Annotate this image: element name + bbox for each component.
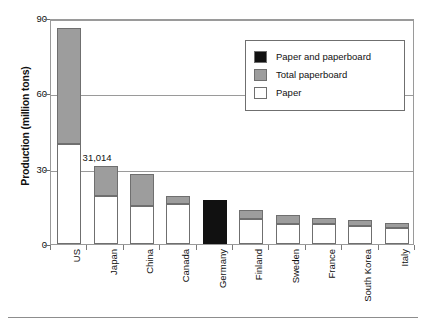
bar-segment-paper xyxy=(385,228,409,244)
y-tick-label: 30 xyxy=(7,165,47,175)
bar-segment-paper xyxy=(57,144,81,244)
y-tick-label: 0 xyxy=(7,240,47,250)
x-tick-mark xyxy=(341,245,342,250)
legend-label: Paper xyxy=(276,88,301,98)
bar-segment-paper xyxy=(239,219,263,244)
legend-label: Paper and paperboard xyxy=(276,52,371,62)
x-axis-label-us: US xyxy=(72,249,82,262)
bar-segment-paper-and-paperboard xyxy=(203,200,227,244)
x-tick-mark xyxy=(196,245,197,250)
bar-segment-paper xyxy=(312,224,336,244)
x-tick-mark xyxy=(305,245,306,250)
x-axis-label-sweden: Sweden xyxy=(291,249,301,283)
x-axis-label-finland: Finland xyxy=(254,249,264,280)
x-axis-label-japan: Japan xyxy=(109,249,119,275)
bar-segment-total-paperboard xyxy=(166,196,190,204)
x-tick-mark xyxy=(123,245,124,250)
x-axis-label-italy: Italy xyxy=(400,249,410,266)
bar-segment-paper xyxy=(166,204,190,244)
chart-legend: Paper and paperboard Total paperboard Pa… xyxy=(245,40,405,111)
x-tick-mark xyxy=(159,245,160,250)
x-axis-label-china: China xyxy=(145,249,155,274)
bar-segment-total-paperboard xyxy=(130,174,154,207)
x-tick-mark xyxy=(414,245,415,250)
x-tick-mark xyxy=(86,245,87,250)
bar-segment-total-paperboard xyxy=(348,220,372,226)
gridline xyxy=(51,20,413,21)
legend-item: Total paperboard xyxy=(254,66,396,84)
x-tick-mark xyxy=(268,245,269,250)
bar-segment-paper xyxy=(276,224,300,244)
x-tick-mark xyxy=(50,245,51,250)
legend-item: Paper xyxy=(254,84,396,102)
footer-divider xyxy=(8,317,418,318)
bar-segment-paper xyxy=(348,226,372,244)
bar-segment-total-paperboard xyxy=(276,215,300,224)
bar-segment-total-paperboard xyxy=(312,218,336,224)
bar-segment-total-paperboard xyxy=(239,210,263,219)
x-axis-label-germany: Germany xyxy=(218,249,228,288)
bar-segment-paper xyxy=(94,196,118,244)
x-axis-label-canada: Canada xyxy=(181,249,191,282)
legend-swatch-total-paperboard xyxy=(254,69,267,81)
bar-segment-paper xyxy=(130,206,154,244)
chart-figure: Production (million tons) 0306090 USJapa… xyxy=(0,0,426,327)
y-tick-label: 60 xyxy=(7,90,47,100)
x-tick-mark xyxy=(378,245,379,250)
bar-segment-total-paperboard xyxy=(57,28,81,144)
y-axis-title: Production (million tons) xyxy=(19,31,31,221)
legend-swatch-paper xyxy=(254,87,267,99)
legend-label: Total paperboard xyxy=(276,70,347,80)
data-label-japan: 31,014 xyxy=(83,153,112,163)
x-tick-mark xyxy=(232,245,233,250)
bar-segment-total-paperboard xyxy=(94,166,118,196)
bar-segment-total-paperboard xyxy=(385,223,409,228)
x-axis-label-france: France xyxy=(327,249,337,279)
legend-swatch-paper-and-paperboard xyxy=(254,51,267,63)
legend-item: Paper and paperboard xyxy=(254,48,396,66)
y-tick-label: 90 xyxy=(7,14,47,24)
x-axis-label-south-korea: South Korea xyxy=(363,249,373,302)
